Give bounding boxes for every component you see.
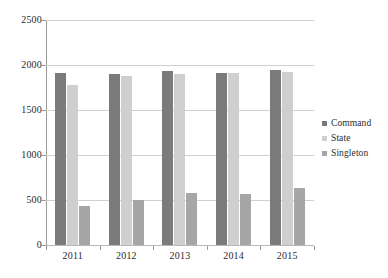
x-axis-tick-label: 2013 xyxy=(153,250,207,262)
bar-command-2014[interactable] xyxy=(216,73,227,245)
x-axis-tick-mark xyxy=(260,246,261,250)
x-axis-tick-label: 2015 xyxy=(260,250,314,262)
y-axis-tick-mark xyxy=(41,20,46,21)
legend-item-label: Singleton xyxy=(331,148,368,159)
y-axis-tick-label: 1000 xyxy=(2,150,42,160)
bar-singleton-2015[interactable] xyxy=(294,188,305,245)
bar-state-2013[interactable] xyxy=(174,74,185,245)
bar-state-2015[interactable] xyxy=(282,72,293,245)
y-axis-labels: 05001000150020002500 xyxy=(0,0,42,278)
y-axis-tick-mark xyxy=(41,110,46,111)
bar-state-2011[interactable] xyxy=(67,85,78,245)
bar-chart: 05001000150020002500 2011201220132014201… xyxy=(0,0,388,278)
x-axis-tick-mark xyxy=(46,246,47,250)
x-axis-tick-mark xyxy=(207,246,208,250)
chart-legend: CommandStateSingleton xyxy=(322,116,388,161)
bar-state-2014[interactable] xyxy=(228,73,239,245)
x-axis-tick-mark xyxy=(314,246,315,250)
bar-singleton-2011[interactable] xyxy=(79,206,90,245)
y-axis-tick-mark xyxy=(41,200,46,201)
plot-area xyxy=(46,20,314,245)
x-axis-tick-label: 2014 xyxy=(207,250,261,262)
bar-group xyxy=(260,20,314,245)
x-axis-tick-label: 2012 xyxy=(100,250,154,262)
legend-item-state[interactable]: State xyxy=(322,131,388,146)
x-axis-tick-mark xyxy=(153,246,154,250)
bar-group xyxy=(46,20,100,245)
bar-singleton-2012[interactable] xyxy=(133,200,144,245)
legend-swatch-icon xyxy=(322,151,327,156)
y-axis-tick-mark xyxy=(41,65,46,66)
bar-group xyxy=(207,20,261,245)
bar-singleton-2013[interactable] xyxy=(186,193,197,245)
x-axis-tick-label: 2011 xyxy=(46,250,100,262)
y-axis-tick-mark xyxy=(41,155,46,156)
legend-item-label: State xyxy=(331,133,351,144)
bar-command-2011[interactable] xyxy=(55,73,66,245)
y-axis-tick-label: 2500 xyxy=(2,15,42,25)
legend-item-singleton[interactable]: Singleton xyxy=(322,146,388,161)
x-axis-labels: 20112012201320142015 xyxy=(46,250,314,268)
bar-command-2013[interactable] xyxy=(162,71,173,245)
legend-item-command[interactable]: Command xyxy=(322,116,388,131)
bar-command-2012[interactable] xyxy=(109,74,120,245)
legend-swatch-icon xyxy=(322,136,327,141)
bar-singleton-2014[interactable] xyxy=(240,194,251,245)
legend-swatch-icon xyxy=(322,121,327,126)
legend-item-label: Command xyxy=(331,118,371,129)
y-axis-tick-label: 2000 xyxy=(2,60,42,70)
bar-state-2012[interactable] xyxy=(121,76,132,245)
y-axis-tick-label: 500 xyxy=(2,195,42,205)
y-axis-tick-label: 0 xyxy=(2,240,42,250)
y-axis-tick-label: 1500 xyxy=(2,105,42,115)
x-axis-tick-mark xyxy=(100,246,101,250)
bar-command-2015[interactable] xyxy=(270,70,281,246)
bar-group xyxy=(153,20,207,245)
bar-group xyxy=(100,20,154,245)
axis-baseline xyxy=(46,245,314,246)
